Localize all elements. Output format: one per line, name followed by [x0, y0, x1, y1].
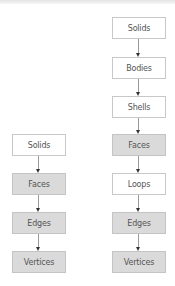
node-label: Vertices — [124, 258, 154, 267]
connector — [138, 118, 139, 130]
connector — [138, 156, 139, 169]
connector — [38, 195, 39, 208]
node-label: Faces — [28, 180, 49, 189]
right-node-loops: Loops — [112, 173, 166, 195]
right-node-faces: Faces — [112, 134, 166, 156]
right-node-shells: Shells — [112, 96, 166, 118]
node-label: Edges — [127, 219, 150, 228]
connector — [138, 234, 139, 247]
right-node-vertices: Vertices — [112, 251, 166, 273]
left-node-vertices: Vertices — [12, 251, 66, 273]
connector — [138, 79, 139, 92]
node-label: Edges — [27, 219, 50, 228]
left-node-faces: Faces — [12, 173, 66, 195]
connector — [138, 39, 139, 53]
left-node-edges: Edges — [12, 212, 66, 234]
node-label: Loops — [128, 180, 150, 189]
connector — [38, 156, 39, 169]
connector — [138, 195, 139, 208]
node-label: Solids — [128, 24, 150, 33]
right-node-bodies: Bodies — [112, 57, 166, 79]
cropped-header-band — [0, 0, 175, 4]
node-label: Shells — [128, 103, 150, 112]
right-node-solids: Solids — [112, 17, 166, 39]
node-label: Vertices — [24, 258, 54, 267]
node-label: Solids — [28, 141, 50, 150]
node-label: Bodies — [126, 64, 152, 73]
node-label: Faces — [128, 141, 149, 150]
connector — [38, 234, 39, 247]
left-node-solids: Solids — [12, 134, 66, 156]
right-node-edges: Edges — [112, 212, 166, 234]
